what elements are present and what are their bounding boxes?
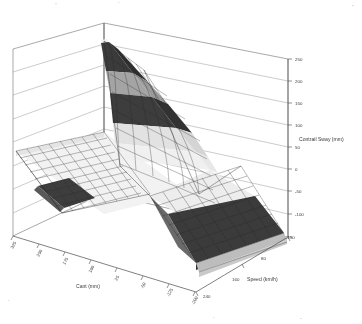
z-tick-label-100: 100 [295, 123, 303, 128]
surface-plot-figure: 250 200 150 100 50 0 -50 -100 -150 Contr… [0, 0, 362, 324]
z-axis-title: Contrail Sway (mm) [299, 136, 344, 142]
z-tick-label-150: 150 [295, 101, 303, 106]
x-axis-title: Cant (mm) [76, 283, 100, 289]
z-tick-label-200: 200 [295, 79, 303, 84]
y-tick-label-80: 80 [261, 256, 266, 261]
y-tick-label-160: 160 [232, 277, 240, 282]
z-tick-label-50: 50 [295, 145, 300, 150]
plot-canvas: 250 200 150 100 50 0 -50 -100 -150 Contr… [0, 0, 362, 324]
z-tick-label-neg100: -100 [295, 212, 304, 217]
z-tick-label-neg50: -50 [295, 189, 302, 194]
z-tick-label-250: 250 [295, 57, 303, 62]
y-axis-title: Speed (km/h) [247, 276, 278, 282]
y-tick-label-240: 240 [203, 294, 211, 299]
